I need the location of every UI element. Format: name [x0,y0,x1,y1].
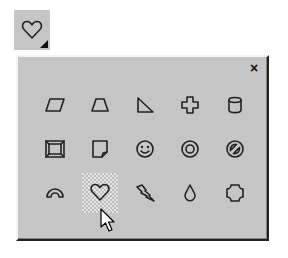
shape-donut[interactable] [167,127,212,171]
can-icon [225,95,245,115]
shape-heart[interactable] [82,173,118,213]
teardrop-icon [180,183,200,203]
shape-plaque[interactable] [212,171,257,215]
bevel-icon [45,139,65,159]
smiley-icon [135,139,155,159]
trapezoid-icon [90,95,110,115]
shape-right-triangle[interactable] [122,83,167,127]
cross-icon [180,95,200,115]
folded-corner-icon [90,139,110,159]
shape-grid [32,83,257,215]
shape-trapezoid[interactable] [77,83,122,127]
shape-folded-corner[interactable] [77,127,122,171]
plaque-icon [225,183,245,203]
parallelogram-icon [45,95,65,115]
shape-cross[interactable] [167,83,212,127]
shape-teardrop[interactable] [167,171,212,215]
shape-block-arc[interactable] [32,171,77,215]
no-symbol-icon [225,139,245,159]
shape-smiley-face[interactable] [122,127,167,171]
shape-no-symbol[interactable] [212,127,257,171]
heart-icon [90,183,110,203]
block-arc-icon [45,183,65,203]
autoshape-heart-button[interactable] [14,10,50,50]
shape-bevel[interactable] [32,127,77,171]
right-triangle-icon [135,95,155,115]
shape-lightning-bolt[interactable] [122,171,167,215]
shape-can[interactable] [212,83,257,127]
basic-shapes-palette: × [16,55,269,241]
dropdown-arrow-icon[interactable] [40,40,48,48]
donut-icon [180,139,200,159]
shape-parallelogram[interactable] [32,83,77,127]
close-button[interactable]: × [247,61,261,75]
heart-icon [21,20,43,40]
lightning-bolt-icon [135,183,155,203]
